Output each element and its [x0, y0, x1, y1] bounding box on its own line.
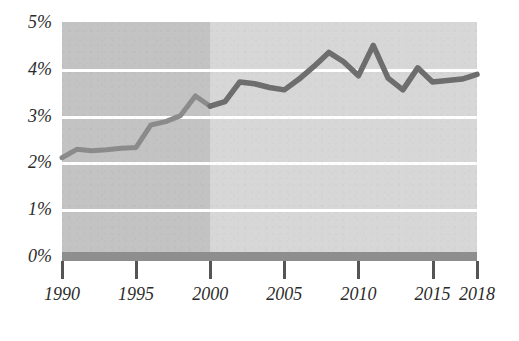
- x-axis-tick-2015: [432, 261, 435, 279]
- x-axis-tick-2005: [283, 261, 286, 279]
- data-series-line: [62, 22, 477, 256]
- x-axis-label-2018: 2018: [459, 284, 495, 305]
- x-axis-label-2000: 2000: [192, 284, 228, 305]
- y-axis-label-1pct: 1%: [0, 200, 52, 218]
- x-axis-label-1990: 1990: [44, 284, 80, 305]
- y-axis-label-5pct: 5%: [0, 13, 52, 31]
- x-axis-tick-2000: [209, 261, 212, 279]
- y-axis-label-2pct: 2%: [0, 153, 52, 171]
- y-axis-label-4pct: 4%: [0, 60, 52, 78]
- x-axis-tick-1995: [135, 261, 138, 279]
- x-axis-tick-1990: [61, 261, 64, 279]
- plot-area: [62, 22, 477, 256]
- x-axis-label-2005: 2005: [266, 284, 302, 305]
- x-axis: 1990199520002005201020152018: [0, 256, 519, 341]
- x-axis-tick-2018: [476, 261, 479, 279]
- y-axis-label-3pct: 3%: [0, 107, 52, 125]
- y-axis: 5%4%3%2%1%0%: [0, 0, 62, 290]
- x-axis-label-1995: 1995: [118, 284, 154, 305]
- x-axis-tick-2010: [357, 261, 360, 279]
- x-axis-label-2010: 2010: [340, 284, 376, 305]
- chart-figure: 5%4%3%2%1%0% 199019952000200520102015201…: [0, 0, 519, 341]
- series-segment-early: [62, 96, 210, 158]
- series-segment-late: [210, 45, 477, 106]
- x-axis-label-2015: 2015: [415, 284, 451, 305]
